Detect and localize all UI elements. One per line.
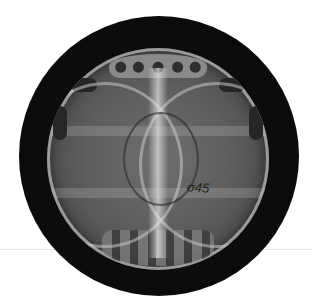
handwritten-annotation: σ45 [187,179,210,196]
diffraction-pattern [47,48,269,270]
